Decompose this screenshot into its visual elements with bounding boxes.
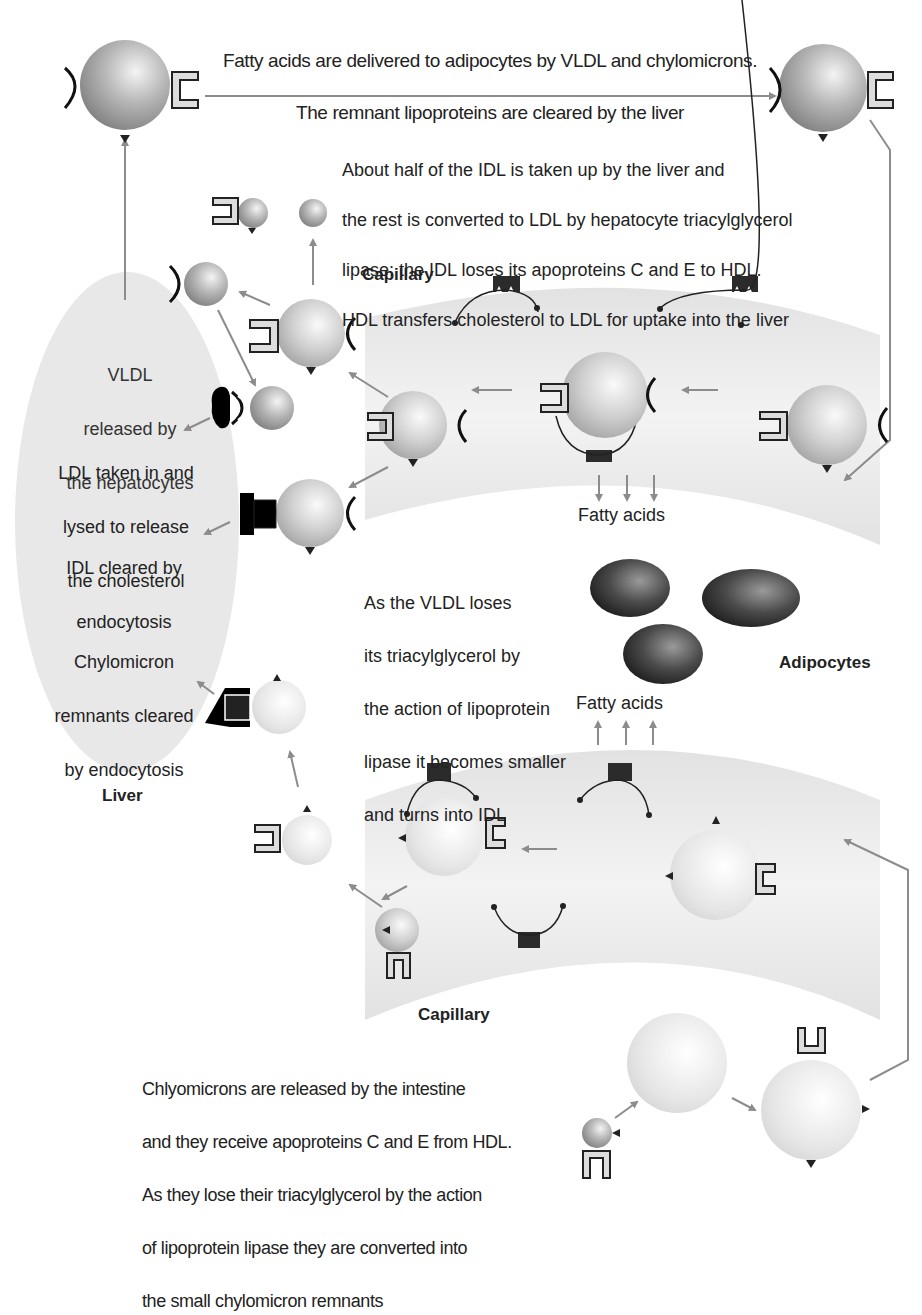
nascent-chylomicron — [582, 1118, 620, 1178]
liver-chylo-line2: remnants cleared — [24, 703, 224, 730]
vldl-caption-line4: lipase it becomes smaller — [364, 749, 566, 776]
capillary-top-label: Capillary — [362, 262, 434, 288]
ldl-with-apo-particle — [213, 198, 268, 234]
chylo-caption-line3: As they lose their triacylglycerol by th… — [142, 1182, 512, 1209]
idl-caption-line2: the rest is converted to LDL by hepatocy… — [342, 208, 793, 233]
fatty-acids-bottom-label: Fatty acids — [576, 690, 663, 716]
hdl-particle — [299, 199, 327, 227]
fatty-acid-arrows-up — [598, 722, 653, 745]
liver-ldl-line1: LDL taken in and — [26, 460, 226, 487]
idl-receptor-bound-particle — [240, 479, 355, 555]
arrow-remnant-to-liver — [290, 752, 298, 787]
adipocyte-2 — [702, 569, 800, 627]
title-caption-line2: The remnant lipoproteins are cleared by … — [170, 100, 810, 126]
hdl-with-apoe-particle — [170, 262, 228, 306]
liver-chylo-line1: Chylomicron — [24, 649, 224, 676]
arrow-chylo-grow — [615, 1102, 637, 1118]
chylo-caption: Chlyomicrons are released by the intesti… — [142, 1049, 512, 1315]
adipocyte-1 — [590, 559, 670, 617]
liver-label: Liver — [102, 783, 143, 809]
adipocyte-3 — [623, 624, 703, 684]
adipocytes-label: Adipocytes — [779, 650, 871, 676]
liver-chylo-line3: by endocytosis — [24, 757, 224, 784]
liver-vldl-line1: VLDL — [30, 362, 230, 389]
idl-caption-line1: About half of the IDL is taken up by the… — [342, 158, 793, 183]
chylomicron-mature — [761, 1028, 870, 1168]
chylo-caption-line2: and they receive apoproteins C and E fro… — [142, 1129, 512, 1156]
vldl-caption-line3: the action of lipoprotein — [364, 696, 566, 723]
liver-idl-line1: IDL cleared by — [24, 555, 224, 582]
idl-particle-exit — [250, 299, 355, 375]
idl-caption: About half of the IDL is taken up by the… — [342, 133, 793, 358]
arrow-idl-to-hdl — [240, 292, 270, 305]
chylo-caption-line1: Chlyomicrons are released by the intesti… — [142, 1076, 512, 1103]
vldl-caption-line5: and turns into IDL — [364, 802, 566, 829]
fatty-acids-top-label: Fatty acids — [578, 502, 665, 528]
vldl-caption-line2: its triacylglycerol by — [364, 643, 566, 670]
arrow-chylo-mature — [732, 1098, 755, 1110]
chylomicron-remnant-apoe — [255, 805, 332, 865]
idl-caption-line4: HDL transfers cholesterol to LDL for upt… — [342, 308, 793, 333]
chylo-caption-line4: of lipoprotein lipase they are converted… — [142, 1235, 512, 1262]
chylo-caption-line5: the small chylomicron remnants — [142, 1288, 512, 1315]
chylomicron-growing — [627, 1013, 727, 1113]
capillary-bottom-label: Capillary — [418, 1002, 490, 1028]
vldl-caption: As the VLDL loses its triacylglycerol by… — [364, 563, 566, 855]
vldl-caption-line1: As the VLDL loses — [364, 590, 566, 617]
title-caption-line1: Fatty acids are delivered to adipocytes … — [170, 48, 810, 74]
